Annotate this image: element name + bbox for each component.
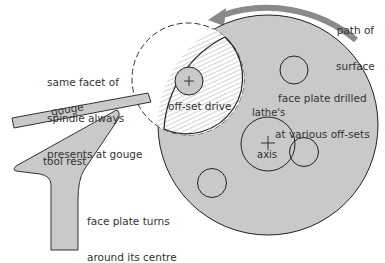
lathe-axis-label-bottom: axis xyxy=(257,149,277,161)
label-line: face plate turns xyxy=(87,215,204,227)
tool-rest-label: tool rest xyxy=(43,155,86,167)
face-plate-turns-label: face plate turns around its centre but s… xyxy=(87,191,204,263)
label-line: face plate drilled xyxy=(275,92,370,104)
offset-drive-label: off-set drive xyxy=(168,100,231,112)
face-plate-drilled-label: face plate drilled at various off-sets xyxy=(275,68,370,152)
label-line: same facet of xyxy=(47,76,142,88)
label-line: path of xyxy=(336,24,375,36)
lathe-axis-label-top: lathe's xyxy=(252,107,285,119)
label-line: around its centre xyxy=(87,251,204,263)
label-line: at various off-sets xyxy=(275,128,370,140)
